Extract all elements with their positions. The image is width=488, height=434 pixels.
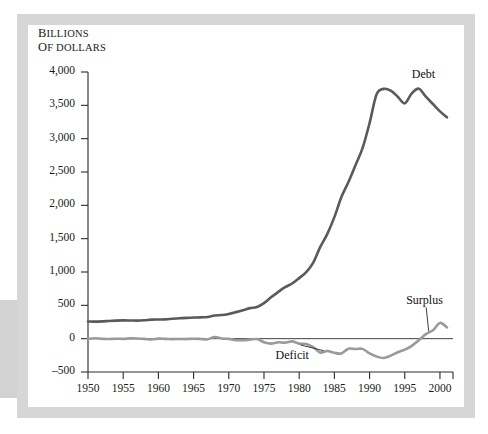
chart-plot: [0, 0, 488, 434]
series-line-deficit-and-surplus: [88, 323, 447, 358]
chart-screenshot: BILLIONS OF DOLLARS –50005001,0001,5002,…: [0, 0, 488, 434]
series-line-debt: [88, 89, 447, 322]
plot-area: BILLIONS OF DOLLARS –50005001,0001,5002,…: [0, 0, 488, 434]
annotation-leader-surplus: [426, 307, 429, 331]
